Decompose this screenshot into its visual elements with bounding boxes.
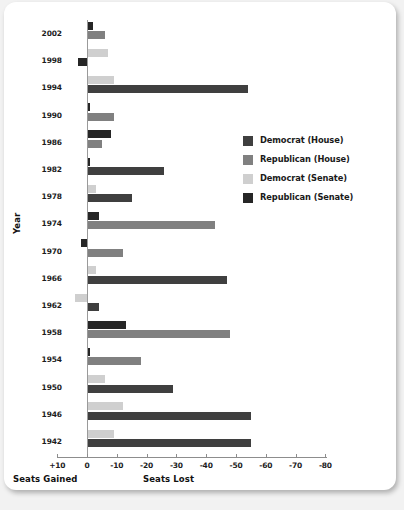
year-axis-label: 1986 — [28, 138, 62, 147]
chart-bar — [87, 194, 132, 202]
x-axis-tick-label: -80 — [310, 461, 340, 470]
chart-bar — [87, 49, 108, 57]
chart-bar — [87, 357, 141, 365]
chart-card: Year 20021998199419901986198219781974197… — [4, 2, 396, 490]
year-axis-label: 1958 — [28, 328, 62, 337]
x-axis-tick — [266, 454, 267, 458]
year-axis-label: 1966 — [28, 274, 62, 283]
year-axis-label: 1974 — [28, 219, 62, 228]
year-axis-label: 1978 — [28, 192, 62, 201]
chart-bar — [87, 439, 251, 447]
x-axis-tick-label: -40 — [191, 461, 221, 470]
legend-swatch-icon — [243, 136, 253, 146]
chart-bar — [87, 375, 105, 383]
year-axis-label: 1962 — [28, 301, 62, 310]
x-axis-tick-label: +10 — [42, 461, 72, 470]
x-axis-tick-label: 0 — [72, 461, 102, 470]
bar-chart-plot: Year 20021998199419901986198219781974197… — [4, 2, 396, 490]
chart-bar — [87, 249, 123, 257]
x-axis-tick — [57, 454, 58, 458]
x-axis-tick-label: -30 — [161, 461, 191, 470]
chart-bar — [87, 266, 96, 274]
chart-bar — [87, 276, 227, 284]
legend-swatch-icon — [243, 155, 253, 165]
x-axis-tick-label: -10 — [102, 461, 132, 470]
chart-bar — [87, 140, 102, 148]
x-axis-tick — [236, 454, 237, 458]
chart-bar — [87, 31, 105, 39]
chart-bar — [78, 58, 87, 66]
x-axis-tick — [147, 454, 148, 458]
x-axis-tick-label: -50 — [221, 461, 251, 470]
x-axis-tick — [176, 454, 177, 458]
year-axis-label: 1970 — [28, 247, 62, 256]
year-axis-label: 1946 — [28, 410, 62, 419]
x-axis-tick — [296, 454, 297, 458]
x-axis-tick — [325, 454, 326, 458]
year-axis-label: 1942 — [28, 437, 62, 446]
legend-swatch-icon — [243, 174, 253, 184]
chart-bar — [87, 185, 96, 193]
chart-bar — [75, 294, 87, 302]
legend-label: Republican (Senate) — [260, 192, 353, 202]
chart-bar — [87, 76, 114, 84]
zero-axis-line — [87, 20, 88, 457]
chart-bar — [87, 212, 99, 220]
chart-bar — [87, 321, 126, 329]
chart-bar — [87, 130, 111, 138]
year-axis-label: 1990 — [28, 111, 62, 120]
year-axis-label: 1954 — [28, 355, 62, 364]
legend-label: Democrat (House) — [260, 135, 343, 145]
chart-bar — [87, 385, 173, 393]
x-axis-caption-left: Seats Gained — [13, 474, 77, 484]
chart-bar — [87, 330, 230, 338]
legend-label: Democrat (Senate) — [260, 173, 347, 183]
year-axis-label: 2002 — [28, 29, 62, 38]
chart-bar — [87, 221, 215, 229]
y-axis-title: Year — [12, 213, 22, 234]
year-axis-label: 1994 — [28, 83, 62, 92]
year-axis-label: 1998 — [28, 56, 62, 65]
chart-bar — [87, 412, 251, 420]
x-axis-tick — [87, 454, 88, 458]
chart-bar — [87, 303, 99, 311]
x-axis-tick-label: -20 — [132, 461, 162, 470]
chart-bar — [87, 113, 114, 121]
x-axis-tick-label: -70 — [281, 461, 311, 470]
x-axis-tick-label: -60 — [251, 461, 281, 470]
year-axis-label: 1982 — [28, 165, 62, 174]
x-axis-line — [57, 457, 327, 458]
x-axis-caption-right: Seats Lost — [143, 474, 194, 484]
chart-bar — [87, 167, 164, 175]
legend-swatch-icon — [243, 193, 253, 203]
chart-bar — [87, 85, 248, 93]
chart-bar — [87, 430, 114, 438]
legend-label: Republican (House) — [260, 154, 350, 164]
x-axis-tick — [117, 454, 118, 458]
year-axis-label: 1950 — [28, 383, 62, 392]
chart-bar — [87, 402, 123, 410]
x-axis-tick — [206, 454, 207, 458]
